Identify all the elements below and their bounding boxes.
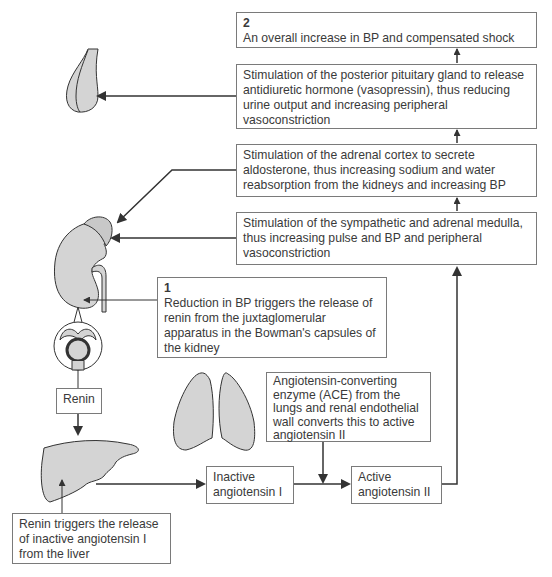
renin-box: Renin [56,388,102,414]
active-angiotensin-box: Active angiotensin II [351,466,442,504]
trigger-text: Reduction in BP triggers the release of … [164,296,376,355]
inactive-angiotensin-box: Inactive angiotensin I [206,466,294,504]
adrenal-cortex-text: Stimulation of the adrenal cortex to sec… [243,148,506,192]
step-number: 1 [164,281,380,296]
kidney-icon [54,217,112,312]
ace-text: Angiotensin-converting enzyme (ACE) from… [273,374,419,442]
sympathetic-box: Stimulation of the sympathetic and adren… [236,212,537,265]
trigger-box: 1 Reduction in BP triggers the release o… [157,277,387,358]
inactive-angiotensin-text: Inactive angiotensin I [213,470,282,499]
pituitary-box: Stimulation of the posterior pituitary g… [236,64,537,129]
liver-release-text: Renin triggers the release of inactive a… [19,517,159,561]
outcome-box: 2 An overall increase in BP and compensa… [236,12,537,48]
pituitary-text: Stimulation of the posterior pituitary g… [243,68,524,127]
liver-icon [41,441,138,502]
glomerulus-icon [54,307,102,388]
sympathetic-text: Stimulation of the sympathetic and adren… [243,216,523,260]
lungs-icon [174,373,255,450]
adrenal-cortex-box: Stimulation of the adrenal cortex to sec… [236,144,537,197]
active-angiotensin-text: Active angiotensin II [358,470,431,499]
renin-text: Renin [63,392,95,406]
ace-box: Angiotensin-converting enzyme (ACE) from… [266,372,431,442]
pituitary-gland-icon [66,49,98,112]
liver-release-box: Renin triggers the release of inactive a… [12,513,171,564]
step-number: 2 [243,16,530,31]
outcome-text: An overall increase in BP and compensate… [243,31,514,45]
